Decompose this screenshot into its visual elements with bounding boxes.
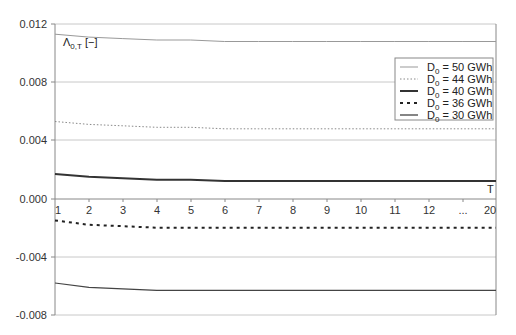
series-line-3	[55, 220, 496, 227]
svg-text:3: 3	[120, 204, 126, 216]
svg-text:8: 8	[290, 204, 296, 216]
svg-text:0.008: 0.008	[19, 76, 47, 88]
svg-text:2: 2	[86, 204, 92, 216]
svg-text:1: 1	[55, 204, 61, 216]
line-chart: 0.012 0.008 0.004 0.000 -0.004 -0.008 1 …	[0, 0, 516, 335]
svg-text:4: 4	[154, 204, 160, 216]
svg-text:...: ...	[458, 204, 467, 216]
x-tick-labels: 1 2 3 4 5 6 7 8 9 10 11 12 ... 20	[55, 204, 496, 216]
legend: D0 = 50 GWh D0 = 44 GWh D0 = 40 GWh D0 =…	[395, 58, 493, 124]
svg-text:5: 5	[188, 204, 194, 216]
y-ticks	[51, 24, 55, 315]
svg-text:0.012: 0.012	[19, 18, 47, 30]
svg-text:11: 11	[389, 204, 400, 216]
svg-text:-0.004: -0.004	[16, 251, 47, 263]
y-axis-label: Λ0,T [−]	[63, 36, 98, 51]
svg-text:10: 10	[355, 204, 367, 216]
svg-text:9: 9	[324, 204, 330, 216]
x-axis-label: T	[487, 183, 494, 195]
svg-text:7: 7	[256, 204, 262, 216]
svg-text:20: 20	[484, 204, 496, 216]
series-line-2	[55, 174, 496, 181]
y-tick-labels: 0.012 0.008 0.004 0.000 -0.004 -0.008	[16, 18, 47, 321]
series-line-0	[55, 34, 496, 41]
svg-text:0.004: 0.004	[19, 134, 47, 146]
svg-text:-0.008: -0.008	[16, 309, 47, 321]
series-line-4	[55, 283, 496, 290]
svg-text:6: 6	[222, 204, 228, 216]
svg-text:0.000: 0.000	[19, 193, 47, 205]
series-line-1	[55, 122, 496, 129]
svg-text:12: 12	[423, 204, 435, 216]
